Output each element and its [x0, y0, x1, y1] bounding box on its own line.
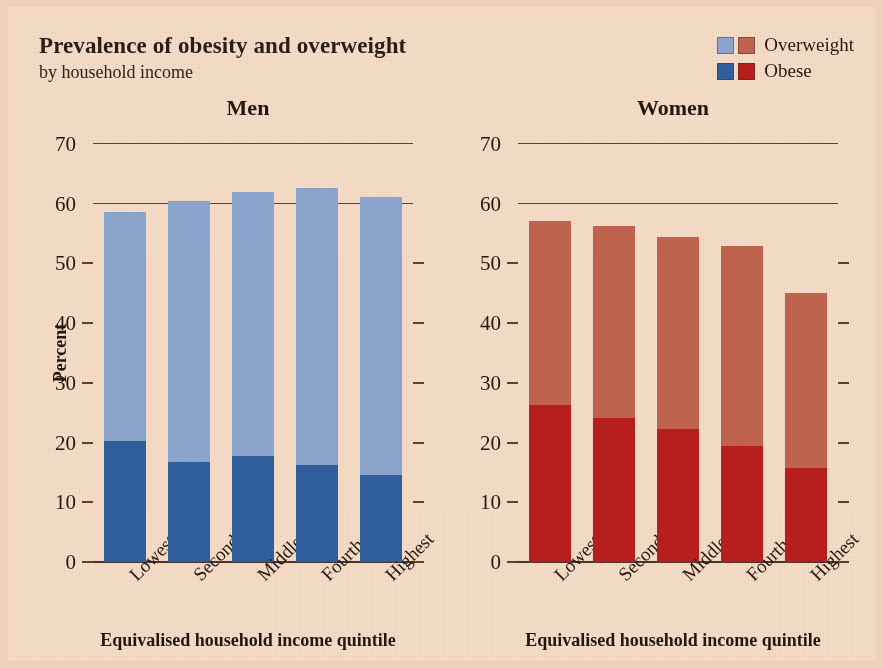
tick-right-50	[838, 262, 849, 264]
legend-swatch-men-overweight	[717, 37, 734, 54]
bar-women-lowest[interactable]: Lowest	[529, 144, 571, 562]
bar-men-second[interactable]: Second	[168, 144, 210, 562]
tick-left-20	[82, 442, 93, 444]
bar-segment-overweight[interactable]	[529, 221, 571, 405]
y-tick-label-20: 20	[480, 430, 501, 455]
y-tick-label-50: 50	[55, 251, 76, 276]
y-tick-label-0: 0	[491, 550, 502, 575]
legend-label-overweight: Overweight	[764, 34, 854, 56]
x-axis-title-men: Equivalised household income quintile	[15, 630, 445, 651]
bar-segment-obese[interactable]	[721, 446, 763, 562]
bar-segment-obese[interactable]	[785, 468, 827, 562]
bar-men-lowest[interactable]: Lowest	[104, 144, 146, 562]
legend-swatch-women-overweight	[738, 37, 755, 54]
bar-segment-obese[interactable]	[104, 441, 146, 562]
panel-title-men: Men	[15, 95, 445, 121]
bar-segment-obese[interactable]	[360, 475, 402, 562]
y-tick-label-30: 30	[480, 370, 501, 395]
tick-right-20	[413, 442, 424, 444]
bar-segment-obese[interactable]	[232, 456, 274, 562]
tick-right-50	[413, 262, 424, 264]
legend-swatch-women-obese	[738, 63, 755, 80]
bar-men-highest[interactable]: Highest	[360, 144, 402, 562]
tick-left-20	[507, 442, 518, 444]
tick-right-10	[413, 501, 424, 503]
bar-segment-obese[interactable]	[657, 429, 699, 562]
tick-right-30	[413, 382, 424, 384]
x-axis-title-women: Equivalised household income quintile	[440, 630, 870, 651]
y-tick-label-40: 40	[480, 311, 501, 336]
chart-figure: Prevalence of obesity and overweight by …	[0, 0, 883, 668]
bar-segment-overweight[interactable]	[360, 197, 402, 475]
legend-label-obese: Obese	[764, 60, 811, 82]
y-tick-label-10: 10	[55, 490, 76, 515]
bar-women-fourth[interactable]: Fourth	[721, 144, 763, 562]
y-tick-label-20: 20	[55, 430, 76, 455]
legend-item-obese: Obese	[717, 59, 854, 83]
bar-women-highest[interactable]: Highest	[785, 144, 827, 562]
tick-right-10	[838, 501, 849, 503]
tick-left-30	[82, 382, 93, 384]
bar-men-fourth[interactable]: Fourth	[296, 144, 338, 562]
bar-segment-overweight[interactable]	[657, 237, 699, 429]
tick-left-0	[507, 561, 518, 563]
tick-left-40	[507, 322, 518, 324]
bar-segment-overweight[interactable]	[721, 246, 763, 446]
tick-right-20	[838, 442, 849, 444]
plot-area-men: Percent 010203040506070LowestSecondMiddl…	[93, 144, 413, 562]
tick-right-40	[413, 322, 424, 324]
y-tick-label-60: 60	[480, 191, 501, 216]
bar-segment-obese[interactable]	[296, 465, 338, 562]
legend: Overweight Obese	[717, 33, 854, 85]
legend-swatch-men-obese	[717, 63, 734, 80]
y-tick-label-0: 0	[66, 550, 77, 575]
y-tick-label-50: 50	[480, 251, 501, 276]
y-tick-label-70: 70	[55, 132, 76, 157]
bar-segment-obese[interactable]	[593, 418, 635, 562]
y-tick-label-40: 40	[55, 311, 76, 336]
bar-segment-overweight[interactable]	[593, 226, 635, 418]
tick-left-40	[82, 322, 93, 324]
panel-men: Men Percent 010203040506070LowestSecondM…	[15, 95, 445, 665]
bar-women-middle[interactable]: Middle	[657, 144, 699, 562]
tick-right-30	[838, 382, 849, 384]
bar-women-second[interactable]: Second	[593, 144, 635, 562]
tick-left-30	[507, 382, 518, 384]
plot-area-women: 010203040506070LowestSecondMiddleFourthH…	[518, 144, 838, 562]
bar-men-middle[interactable]: Middle	[232, 144, 274, 562]
y-tick-label-10: 10	[480, 490, 501, 515]
bar-segment-overweight[interactable]	[168, 201, 210, 462]
tick-left-10	[507, 501, 518, 503]
bar-segment-overweight[interactable]	[232, 192, 274, 456]
y-tick-label-60: 60	[55, 191, 76, 216]
legend-item-overweight: Overweight	[717, 33, 854, 57]
bar-segment-obese[interactable]	[529, 405, 571, 562]
tick-right-40	[838, 322, 849, 324]
tick-left-50	[82, 262, 93, 264]
panel-women: Women 010203040506070LowestSecondMiddleF…	[440, 95, 870, 665]
bar-segment-overweight[interactable]	[296, 188, 338, 465]
page-title: Prevalence of obesity and overweight	[39, 33, 406, 59]
bar-segment-obese[interactable]	[168, 462, 210, 562]
bar-segment-overweight[interactable]	[785, 293, 827, 468]
y-tick-label-70: 70	[480, 132, 501, 157]
tick-left-0	[82, 561, 93, 563]
tick-left-10	[82, 501, 93, 503]
page-subtitle: by household income	[39, 62, 193, 83]
y-tick-label-30: 30	[55, 370, 76, 395]
bar-segment-overweight[interactable]	[104, 212, 146, 441]
panel-title-women: Women	[440, 95, 870, 121]
tick-left-50	[507, 262, 518, 264]
